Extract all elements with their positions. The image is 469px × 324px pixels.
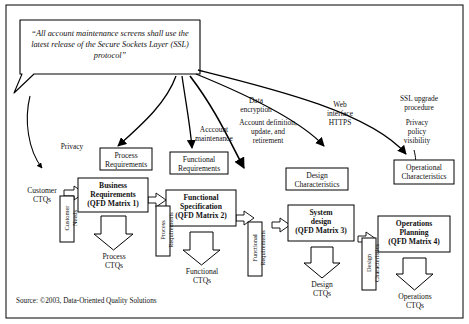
source-credit: Source: ©2003, Data-Oriented Quality Sol… xyxy=(16,297,157,305)
label-design-ctqs: Design CTQs xyxy=(298,280,346,298)
arrow-process-ctqs xyxy=(94,216,133,250)
label-business-requirements: Business Requirements (QFD Matrix 1) xyxy=(78,181,148,208)
annotation-web-interface: Web interface HTTPS xyxy=(316,100,364,127)
label-process-requirements-vert: Process Requirements xyxy=(159,206,174,254)
arrow-functional-ctqs xyxy=(183,232,220,265)
arrow-design-ctqs xyxy=(304,247,340,278)
annotation-privacy-policy-visibility: Privacy policy visibility xyxy=(386,118,448,145)
label-functional-specification: Functional Specification (QFD Matrix 2) xyxy=(166,193,236,220)
label-operations-planning: Operations Planning (QFD Matrix 4) xyxy=(378,219,450,246)
label-functional-ctqs: Functional CTQs xyxy=(176,267,228,285)
label-customer-needs: Customer Needs xyxy=(63,196,78,240)
label-functional-requirements-vert: Functional Requirements xyxy=(251,222,266,274)
label-design-characteristics-vert: Design Characteristics xyxy=(365,238,380,288)
diagram-canvas: “All account maintenance screens shall u… xyxy=(0,0,469,324)
annotation-account-definition: Account definition, update, and retireme… xyxy=(222,118,314,145)
label-process-requirements-top: Process Requirements xyxy=(100,151,152,169)
label-process-ctqs: Process CTQs xyxy=(90,252,138,270)
annotation-data-encryption: Data encryption xyxy=(226,96,286,114)
arrow-operations-ctqs xyxy=(396,258,433,290)
label-operational-characteristics-top: Operational Characteristics xyxy=(394,163,454,181)
callout-text: “All account maintenance screens shall u… xyxy=(26,28,194,61)
annotation-ssl-upgrade: SSL upgrade procedure xyxy=(378,94,460,112)
label-system-design: System design (QFD Matrix 3) xyxy=(288,208,354,235)
label-operations-ctqs: Operations CTQs xyxy=(390,292,440,310)
annotation-privacy: Privacy xyxy=(46,142,98,151)
label-functional-requirements-top: Functional Requirements xyxy=(170,155,228,173)
label-design-characteristics-top: Design Characteristics xyxy=(286,171,348,189)
label-customer-ctqs: Customer CTQs xyxy=(18,186,66,204)
